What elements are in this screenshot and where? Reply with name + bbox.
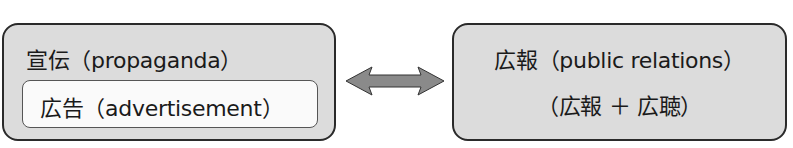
advertisement-label: 広告（advertisement）: [40, 90, 283, 122]
propaganda-label: 宣伝（propaganda）: [26, 42, 242, 74]
public-relations-box: 広報（public relations） （広報 ＋ 広聴）: [452, 23, 787, 141]
advertisement-box: 広告（advertisement）: [22, 80, 318, 128]
public-relations-label: 広報（public relations）: [454, 42, 785, 74]
public-relations-subtitle: （広報 ＋ 広聴）: [454, 88, 785, 120]
double-arrow-icon: [342, 64, 448, 98]
propaganda-box: 宣伝（propaganda） 広告（advertisement）: [2, 23, 336, 141]
